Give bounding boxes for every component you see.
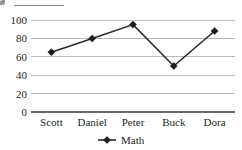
x-tick-label-daniel: Daniel bbox=[78, 116, 107, 128]
diamond-marker-icon bbox=[104, 137, 111, 144]
x-tick-label-buck: Buck bbox=[162, 116, 186, 128]
x-tick-label-peter: Peter bbox=[122, 116, 145, 128]
y-tick-label: 40 bbox=[16, 69, 28, 81]
chart-svg: 100 80 60 40 20 0 Scott Daniel P bbox=[0, 0, 242, 150]
x-tick-label-dora: Dora bbox=[204, 116, 226, 128]
data-point-marker bbox=[48, 49, 55, 56]
gridlines bbox=[31, 20, 235, 94]
legend-label-math: Math bbox=[121, 134, 145, 146]
y-tick-label: 0 bbox=[22, 106, 28, 118]
y-axis-tick-labels: 100 80 60 40 20 0 bbox=[11, 14, 28, 118]
plot-area: 100 80 60 40 20 0 Scott Daniel P bbox=[0, 0, 242, 150]
x-tick-label-scott: Scott bbox=[40, 116, 63, 128]
y-tick-label: 100 bbox=[11, 14, 28, 26]
chart-legend: Math bbox=[98, 134, 145, 146]
y-tick-label: 20 bbox=[16, 88, 28, 100]
x-axis-tick-labels: Scott Daniel Peter Buck Dora bbox=[40, 116, 226, 128]
series-line-math bbox=[51, 25, 214, 66]
y-tick-label: 80 bbox=[16, 32, 28, 44]
y-tick-label: 60 bbox=[16, 51, 28, 63]
line-chart: 100 80 60 40 20 0 Scott Daniel P bbox=[0, 0, 242, 150]
data-point-marker bbox=[89, 35, 96, 42]
